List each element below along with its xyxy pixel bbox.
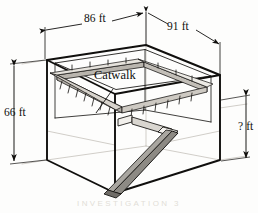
tank-diagram-svg (0, 0, 258, 213)
footer-bleed-text: INVESTIGATION 3 (0, 199, 258, 208)
ramp-slope-body (113, 131, 178, 194)
dim-66ft-tick-bottom (10, 160, 46, 164)
dim-91ft-leader-left (148, 13, 168, 24)
ramp-landing (118, 115, 132, 126)
dimension-label-86ft: 86 ft (84, 12, 106, 24)
figure-container: 86 ft 91 ft 66 ft ? ft Catwalk INVESTIGA… (0, 0, 258, 213)
dim-86ft-leader-right (112, 13, 143, 21)
dim-86ft-leader-left (46, 24, 82, 30)
dimension-label-unknown: ? ft (238, 120, 253, 132)
dim-91ft-leader-right (196, 30, 219, 44)
dim-66ft-tick-top (10, 60, 46, 64)
ramp-slope-edge (108, 130, 172, 192)
dimension-label-91ft: 91 ft (167, 20, 189, 32)
catwalk-label: Catwalk (94, 68, 136, 83)
dimension-label-66ft: 66 ft (4, 106, 26, 118)
